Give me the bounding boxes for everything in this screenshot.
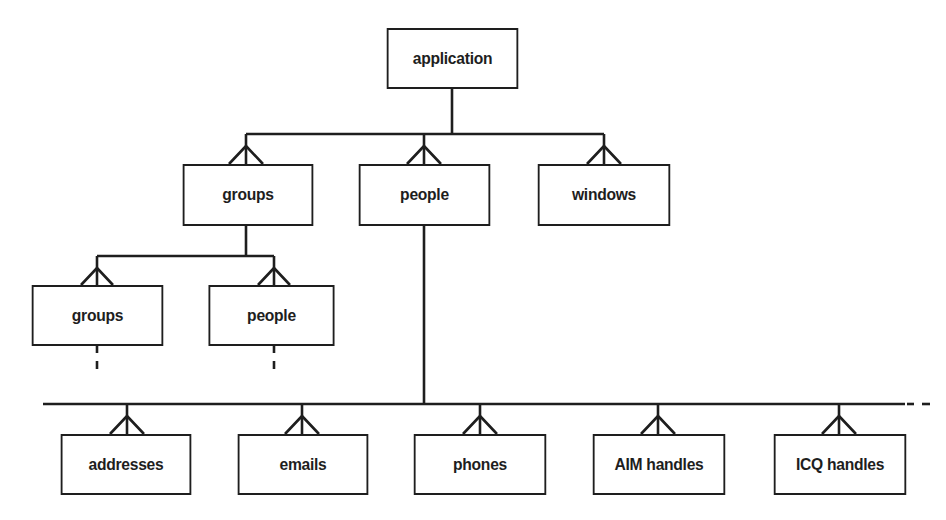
entity-label: application xyxy=(413,49,493,69)
entity-label: groups xyxy=(222,185,273,205)
entity-groups-child: groups xyxy=(32,285,164,346)
entity-people: people xyxy=(359,164,491,226)
entity-label: emails xyxy=(279,455,326,475)
entity-phones: phones xyxy=(414,434,546,495)
entity-diagram: application groups people windows groups… xyxy=(0,0,946,520)
entity-label: windows xyxy=(572,185,636,205)
entity-aim-handles: AIM handles xyxy=(593,434,725,495)
entity-label: phones xyxy=(453,455,507,475)
entity-groups: groups xyxy=(183,164,314,226)
entity-people-child: people xyxy=(208,285,334,346)
entity-addresses: addresses xyxy=(61,434,192,495)
entity-windows: windows xyxy=(538,164,670,226)
entity-application: application xyxy=(387,28,519,89)
entity-label: people xyxy=(400,185,449,205)
entity-emails: emails xyxy=(238,434,369,495)
entity-icq-handles: ICQ handles xyxy=(774,434,906,495)
entity-label: AIM handles xyxy=(614,455,703,475)
entity-label: groups xyxy=(72,306,123,326)
entity-label: ICQ handles xyxy=(796,455,884,475)
entity-label: addresses xyxy=(89,455,164,475)
entity-label: people xyxy=(247,306,296,326)
